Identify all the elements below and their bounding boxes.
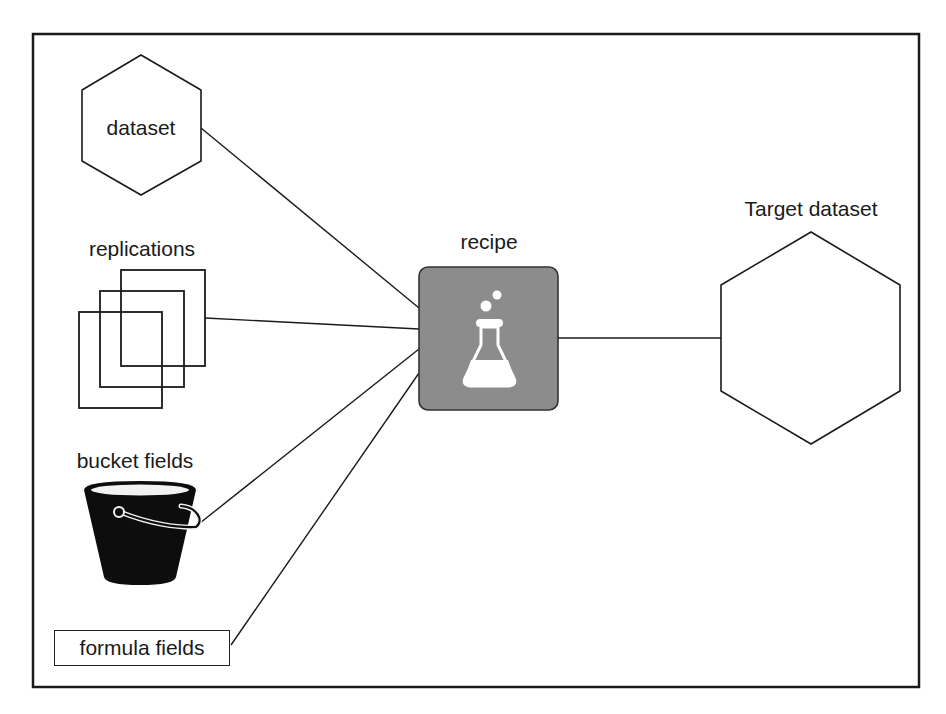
formula-fields-node[interactable]: formula fields xyxy=(54,630,230,666)
target-dataset-label: Target dataset xyxy=(744,198,877,219)
dataset-label: dataset xyxy=(107,117,176,138)
formula-fields-label: formula fields xyxy=(80,636,205,660)
diagram-canvas xyxy=(0,0,946,714)
bucket-fields-label: bucket fields xyxy=(77,450,194,471)
recipe-node[interactable] xyxy=(419,267,558,410)
recipe-label: recipe xyxy=(460,231,517,252)
replications-label: replications xyxy=(89,238,195,259)
